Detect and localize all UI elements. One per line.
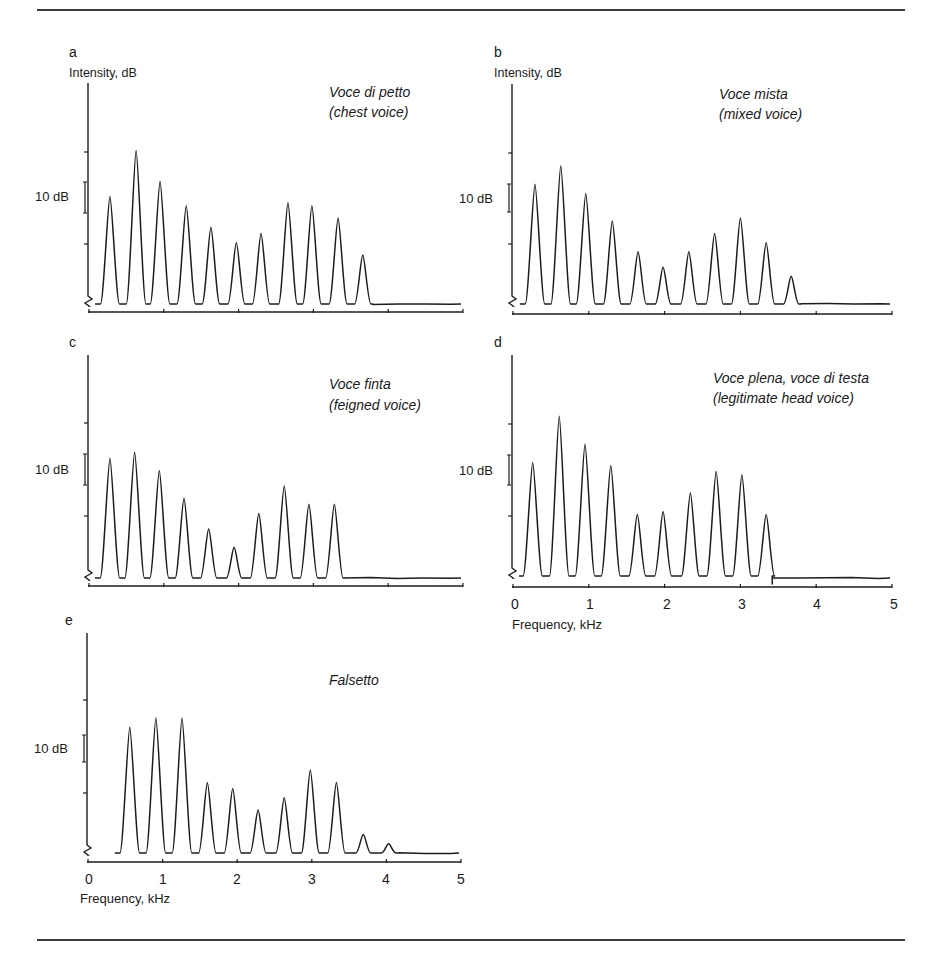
x-tick-label: 1 — [159, 871, 167, 887]
x-tick-label: 2 — [233, 871, 241, 887]
y-axis — [84, 633, 91, 855]
x-axis-label: Frequency, kHz — [80, 891, 170, 906]
spectrum-trace — [115, 718, 459, 854]
x-tick-label: 0 — [85, 871, 93, 887]
spectrum-plot — [0, 0, 937, 963]
x-tick-label: 4 — [382, 871, 390, 887]
x-tick-label: 3 — [308, 871, 316, 887]
x-tick-label: 5 — [457, 871, 465, 887]
scale-bar — [82, 735, 86, 762]
